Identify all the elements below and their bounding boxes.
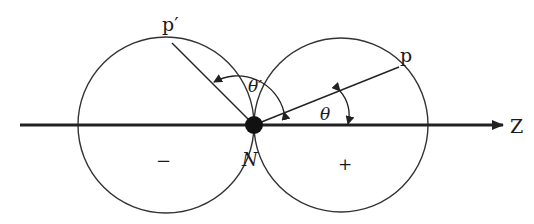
dipole-diagram: p′ p θ′ θ Z N − + [0, 0, 534, 224]
p-prime-label: p′ [162, 13, 178, 35]
nucleus-dot [245, 116, 263, 134]
p-label: p [400, 44, 412, 66]
radius-to-p-prime [172, 43, 254, 125]
theta-label: θ [320, 104, 330, 124]
nucleus-label: N [241, 149, 259, 170]
minus-sign: − [156, 150, 171, 171]
plus-sign: + [338, 154, 352, 174]
theta-prime-label: θ′ [248, 76, 262, 96]
theta-arc-icon [340, 91, 349, 124]
z-axis-label: Z [510, 115, 523, 137]
